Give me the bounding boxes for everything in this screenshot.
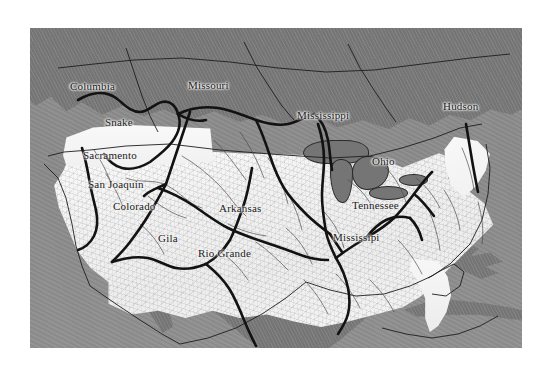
major-rivers — [30, 28, 522, 348]
river-map-figure: Columbia Missouri Mississippi Hudson Sna… — [30, 28, 522, 348]
